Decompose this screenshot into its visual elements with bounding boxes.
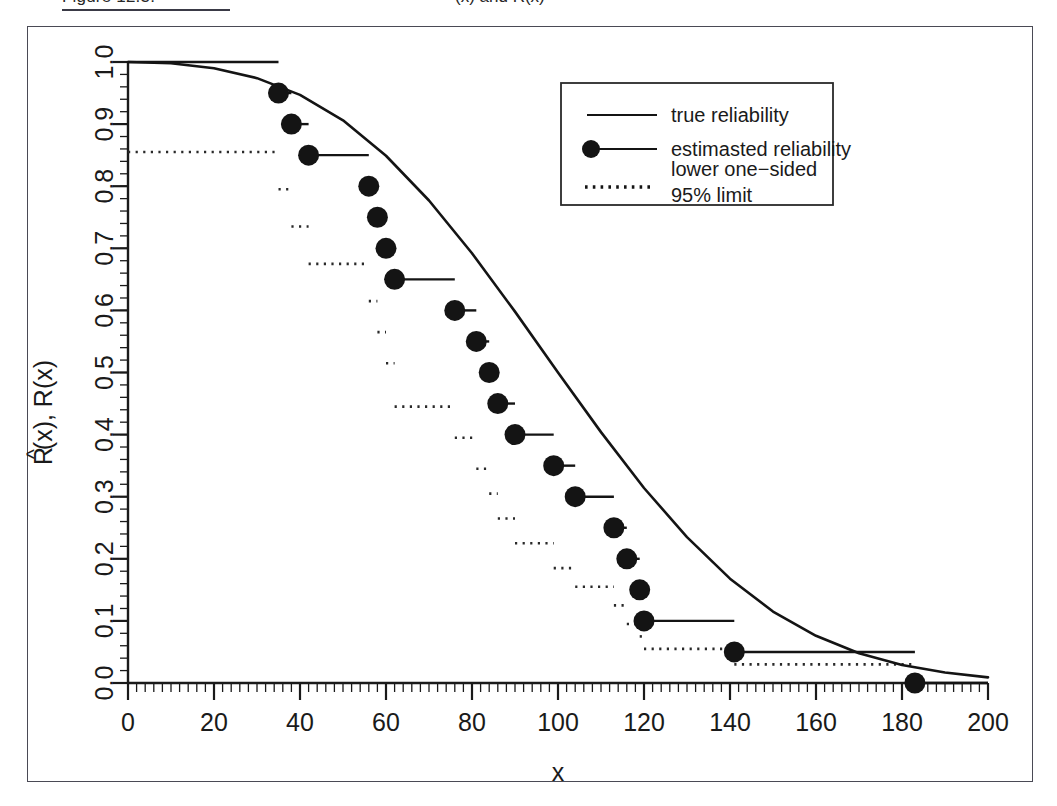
y-tick-label: 0.3 [90, 479, 118, 514]
chart-canvas: 0.00.10.20.30.40.50.60.70.80.91.0 020406… [0, 0, 1057, 806]
y-tick-label: 0.1 [90, 604, 118, 639]
x-tick-label: 60 [372, 708, 400, 736]
data-point-marker [367, 207, 388, 228]
x-tick-label: 80 [458, 708, 486, 736]
y-tick-label: 0.4 [90, 417, 118, 452]
true-reliability-series [128, 62, 988, 677]
y-tick-label: 0.8 [90, 169, 118, 204]
x-axis-tick-labels: 020406080100120140160180200 [121, 708, 1009, 736]
y-axis-tick-labels: 0.00.10.20.30.40.50.60.70.80.91.0 [90, 45, 118, 701]
data-point-marker [565, 486, 586, 507]
y-tick-label: 0.9 [90, 107, 118, 142]
legend-label-estimated-reliability: estimasted reliability [671, 138, 851, 160]
data-point-marker [384, 269, 405, 290]
reliability-chart: 0.00.10.20.30.40.50.60.70.80.91.0 020406… [0, 0, 1057, 806]
data-point-marker [603, 517, 624, 538]
data-point-marker [487, 393, 508, 414]
data-point-marker [616, 548, 637, 569]
data-point-marker [904, 673, 925, 694]
x-tick-label: 180 [881, 708, 923, 736]
y-tick-label: 0.6 [90, 293, 118, 328]
lower-confidence-limit-series [128, 152, 915, 664]
y-tick-label: 0.7 [90, 231, 118, 266]
data-point-marker [634, 610, 655, 631]
x-tick-label: 100 [537, 708, 579, 736]
y-axis-title: R^(x), R(x) [22, 360, 57, 465]
data-point-marker [629, 579, 650, 600]
legend-marker-dot [582, 140, 600, 158]
x-tick-label: 200 [967, 708, 1009, 736]
y-tick-label: 0.0 [90, 666, 118, 701]
legend-label-lower-limit: lower one−sided [671, 158, 817, 180]
data-point-marker [505, 424, 526, 445]
true-reliability-curve [128, 62, 988, 677]
x-tick-label: 120 [623, 708, 665, 736]
x-tick-label: 40 [286, 708, 314, 736]
data-point-marker [444, 300, 465, 321]
legend-label-lower-limit-line2: 95% limit [671, 184, 753, 206]
y-tick-label: 1.0 [90, 45, 118, 80]
legend-label-true-reliability: true reliability [671, 104, 789, 126]
y-tick-label: 0.2 [90, 541, 118, 576]
data-point-marker [543, 455, 564, 476]
x-tick-label: 160 [795, 708, 837, 736]
x-tick-label: 20 [200, 708, 228, 736]
chart-legend: true reliabilityestimasted reliabilitylo… [561, 83, 851, 206]
data-point-marker [268, 83, 289, 104]
data-point-marker [466, 331, 487, 352]
data-point-marker [724, 641, 745, 662]
x-tick-label: 0 [121, 708, 135, 736]
data-point-marker [281, 114, 302, 135]
data-point-marker [479, 362, 500, 383]
data-point-marker [376, 238, 397, 259]
data-point-marker [298, 145, 319, 166]
x-tick-label: 140 [709, 708, 751, 736]
y-tick-label: 0.5 [90, 355, 118, 390]
data-point-marker [358, 176, 379, 197]
x-axis-title: x [552, 758, 565, 786]
